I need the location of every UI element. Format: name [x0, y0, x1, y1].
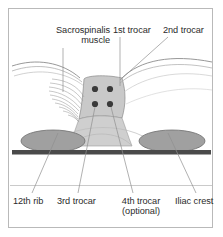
- label-first-trocar: 1st trocar: [113, 25, 151, 35]
- fascia-line-right: [124, 74, 212, 92]
- anatomical-figure: Sacrospinalis muscle 1st trocar 2nd troc…: [0, 0, 223, 237]
- label-twelfth-rib: 12th rib: [13, 196, 43, 206]
- label-fourth-trocar: 4th trocar (optional): [110, 196, 172, 217]
- skin-line-left-inner: [12, 67, 82, 82]
- label-sacrospinalis-muscle: Sacrospinalis muscle: [16, 25, 110, 46]
- trocar-dot-4: [107, 101, 113, 107]
- trocar-dot-2: [107, 86, 113, 92]
- label-sacrospinalis-line1: Sacrospinalis: [56, 25, 110, 35]
- operating-table-bar: [12, 150, 211, 155]
- leader-second-trocar: [120, 37, 168, 80]
- label-third-trocar: 3rd trocar: [57, 196, 96, 206]
- skin-line-left: [12, 62, 80, 78]
- muscle-striations: [49, 79, 84, 122]
- label-iliac-crest: Iliac crest: [175, 196, 213, 206]
- twelfth-rib-bone: [21, 130, 85, 152]
- label-sacrospinalis-line2: muscle: [81, 35, 110, 45]
- fascia-line-left: [14, 72, 84, 86]
- label-fourth-trocar-line2: (optional): [122, 206, 160, 216]
- label-second-trocar: 2nd trocar: [163, 25, 204, 35]
- sacrospinalis-muscle-block: [79, 76, 125, 119]
- trocar-dot-3: [92, 101, 98, 107]
- trocar-dot-1: [92, 86, 98, 92]
- deep-line-right: [126, 89, 212, 104]
- label-fourth-trocar-line1: 4th trocar: [122, 196, 160, 206]
- flank-cross-section: [79, 76, 125, 119]
